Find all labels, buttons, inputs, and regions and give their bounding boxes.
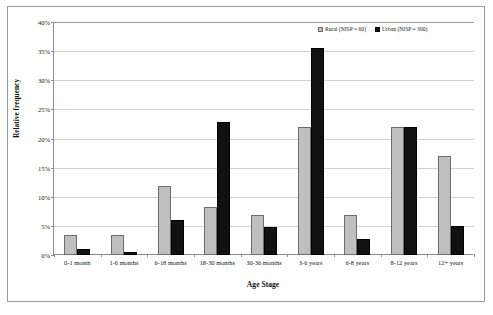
bar-urban: [77, 249, 90, 255]
bar-group: [381, 22, 428, 255]
bar-rural: [64, 235, 77, 255]
y-tick-label: 25%: [38, 106, 50, 113]
x-axis-title: Age Stage: [53, 280, 473, 289]
y-tick-label: 30%: [38, 77, 50, 84]
legend-label: Urban (NISP = 300): [382, 26, 427, 32]
bar-group: [287, 22, 334, 255]
x-tick-label: 3-6 years: [287, 259, 334, 266]
bar-urban: [311, 48, 324, 255]
bar-rural: [111, 235, 124, 255]
x-tick-mark: [474, 254, 475, 257]
y-tick-label: 5%: [41, 222, 50, 229]
bar-group: [334, 22, 381, 255]
bar-group: [101, 22, 148, 255]
y-tick-label: 35%: [38, 48, 50, 55]
bar-rural: [251, 215, 264, 255]
x-tick-mark: [241, 254, 242, 257]
bar-rural: [391, 127, 404, 255]
x-tick-mark: [101, 254, 102, 257]
bar-group: [194, 22, 241, 255]
bar-group: [427, 22, 474, 255]
x-tick-mark: [54, 254, 55, 257]
x-tick-label: 1-6 months: [101, 259, 148, 266]
bar-group: [241, 22, 288, 255]
bar-urban: [124, 252, 137, 255]
y-tick-label: 15%: [38, 164, 50, 171]
bar-urban: [171, 220, 184, 255]
legend-label: Rural (NISP = 60): [325, 26, 366, 32]
bar-urban: [357, 239, 370, 255]
bar-urban: [404, 127, 417, 255]
x-tick-label: 6-8 years: [334, 259, 381, 266]
legend-entry: Urban (NISP = 300): [375, 26, 427, 32]
x-tick-mark: [147, 254, 148, 257]
x-tick-label: 0-1 month: [54, 259, 101, 266]
bar-urban: [264, 227, 277, 255]
x-tick-label: 12+ years: [427, 259, 474, 266]
legend-swatch-rural-icon: [318, 27, 323, 32]
x-tick-label: 8-12 years: [381, 259, 428, 266]
y-tick-label: 20%: [38, 135, 50, 142]
bar-rural: [204, 207, 217, 255]
bar-chart-figure: Relative frequency 0%5%10%15%20%25%30%35…: [0, 0, 493, 315]
y-tick-label: 40%: [38, 19, 50, 26]
plot-area: 0%5%10%15%20%25%30%35%40% 0-1 month1-6 m…: [53, 22, 473, 255]
bar-rural: [344, 215, 357, 255]
x-tick-label: 6-18 months: [147, 259, 194, 266]
y-tick-label: 0%: [41, 252, 50, 259]
chart-legend: Rural (NISP = 60)Urban (NISP = 300): [318, 26, 427, 32]
bar-rural: [158, 186, 171, 255]
bar-rural: [298, 127, 311, 255]
bar-urban: [217, 122, 230, 255]
bar-urban: [451, 226, 464, 255]
legend-entry: Rural (NISP = 60): [318, 26, 366, 32]
x-tick-label: 30-36 months: [241, 259, 288, 266]
bar-rural: [438, 156, 451, 255]
x-tick-mark: [334, 254, 335, 257]
x-tick-mark: [427, 254, 428, 257]
legend-swatch-urban-icon: [375, 27, 380, 32]
bar-groups: [54, 22, 474, 255]
bar-group: [147, 22, 194, 255]
x-tick-mark: [381, 254, 382, 257]
x-tick-label: 18-30 months: [194, 259, 241, 266]
x-tick-mark: [287, 254, 288, 257]
x-tick-mark: [194, 254, 195, 257]
bar-group: [54, 22, 101, 255]
y-axis-title: Relative frequency: [12, 49, 21, 169]
y-tick-label: 10%: [38, 193, 50, 200]
